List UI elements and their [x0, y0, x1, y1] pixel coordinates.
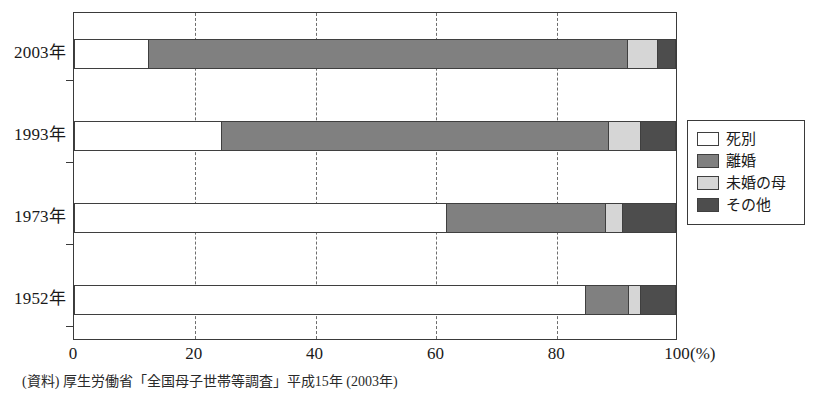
x-axis-label: 20	[185, 345, 202, 362]
x-axis-label: 0	[69, 345, 78, 362]
x-axis-label: 40	[306, 345, 323, 362]
legend-item-rikon[interactable]: 離婚	[697, 150, 796, 172]
bar-segment	[609, 121, 641, 151]
bar-row	[74, 203, 676, 233]
legend-item-sonota[interactable]: その他	[697, 194, 796, 216]
y-axis-tick	[66, 162, 74, 163]
bar-segment	[74, 285, 586, 315]
chart-figure: 2003年1993年1973年1952年 020406080100 (%) 死別…	[0, 0, 818, 395]
bar-segment	[74, 121, 222, 151]
legend-box: 死別 離婚 未婚の母 その他	[687, 120, 805, 225]
y-axis-label: 2003年	[14, 44, 66, 61]
bar-segment	[606, 203, 623, 233]
source-note: (資料) 厚生労働省「全国母子世帯等調査」平成15年 (2003年)	[22, 374, 398, 391]
y-axis-tick	[66, 326, 74, 327]
bar-segment	[74, 203, 447, 233]
bar-segment	[628, 39, 658, 69]
legend-swatch-shibetsu	[697, 132, 719, 146]
bar-segment	[623, 203, 676, 233]
legend-label-shibetsu: 死別	[726, 132, 756, 147]
bar-row	[74, 285, 676, 315]
bar-segment	[658, 39, 676, 69]
bar-segment	[641, 285, 676, 315]
bar-row	[74, 39, 676, 69]
legend-swatch-sonota	[697, 198, 719, 212]
legend-label-rikon: 離婚	[726, 154, 756, 169]
legend-swatch-rikon	[697, 154, 719, 168]
legend-swatch-mikon-no-haha	[697, 176, 719, 190]
legend-item-shibetsu[interactable]: 死別	[697, 128, 796, 150]
x-axis-label: 60	[427, 345, 444, 362]
legend-label-sonota: その他	[726, 198, 771, 213]
x-axis-label: 80	[548, 345, 565, 362]
plot-area	[73, 12, 677, 340]
bar-segment	[641, 121, 676, 151]
y-axis-tick	[66, 80, 74, 81]
bar-segment	[586, 285, 629, 315]
bar-segment	[447, 203, 607, 233]
legend-label-mikon-no-haha: 未婚の母	[726, 176, 786, 191]
bar-segment	[149, 39, 628, 69]
y-axis-label: 1993年	[14, 126, 66, 143]
bar-segment	[629, 285, 641, 315]
bar-row	[74, 121, 676, 151]
legend-item-mikon-no-haha[interactable]: 未婚の母	[697, 172, 796, 194]
y-axis-label: 1952年	[14, 290, 66, 307]
bar-segment	[222, 121, 609, 151]
y-axis-label: 1973年	[14, 208, 66, 225]
x-axis-unit-label: (%)	[690, 345, 715, 362]
y-axis-tick	[66, 244, 74, 245]
x-axis-label: 100	[664, 345, 690, 362]
bar-segment	[74, 39, 149, 69]
